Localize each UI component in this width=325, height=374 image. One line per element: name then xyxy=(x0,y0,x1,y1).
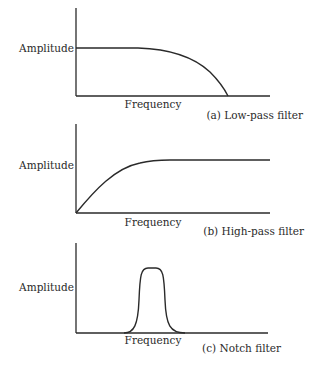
notch-caption: (c) Notch filter xyxy=(202,342,282,354)
low-pass-xlabel: Frequency xyxy=(125,98,182,110)
high-pass-curve xyxy=(76,160,270,213)
notch-xlabel: Frequency xyxy=(125,334,182,346)
low-pass-ylabel: Amplitude xyxy=(18,42,74,54)
notch-ylabel: Amplitude xyxy=(18,281,74,293)
high-pass-caption: (b) High-pass filter xyxy=(203,225,305,237)
panel-high-pass: Amplitude Frequency (b) High-pass filter xyxy=(18,124,305,237)
filter-response-figure: Amplitude Frequency (a) Low-pass filter … xyxy=(0,0,325,374)
low-pass-curve xyxy=(76,48,228,96)
low-pass-caption: (a) Low-pass filter xyxy=(206,109,304,121)
notch-curve xyxy=(124,268,185,333)
panel-low-pass: Amplitude Frequency (a) Low-pass filter xyxy=(18,8,304,121)
high-pass-xlabel: Frequency xyxy=(125,216,182,228)
panel-notch: Amplitude Frequency (c) Notch filter xyxy=(18,243,282,354)
high-pass-ylabel: Amplitude xyxy=(18,159,74,171)
